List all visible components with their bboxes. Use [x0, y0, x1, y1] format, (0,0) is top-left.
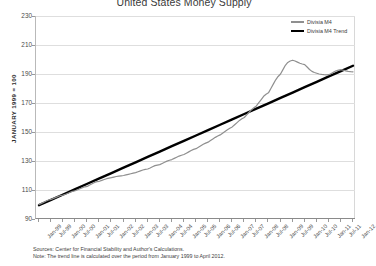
- y-axis-tick-label: 110: [8, 186, 32, 193]
- legend-swatch-icon: [291, 21, 304, 23]
- x-axis-tick-mark: [38, 219, 39, 222]
- series-layer: [36, 16, 356, 219]
- y-axis-tick-mark: [32, 103, 35, 104]
- x-axis-tick-mark: [243, 219, 244, 222]
- series-line-divisia-m4: [39, 60, 353, 204]
- footnotes: Sources: Center for Financial Stability …: [33, 246, 368, 261]
- x-axis-tick-mark: [62, 219, 63, 222]
- y-axis-title: JANUARY 1999 = 100: [10, 49, 17, 169]
- y-axis-tick-mark: [32, 219, 35, 220]
- y-axis-tick-mark: [32, 190, 35, 191]
- x-axis-tick-mark: [50, 219, 51, 222]
- chart-title: United States Money Supply: [0, 0, 368, 9]
- y-axis-tick-label: 210: [8, 41, 32, 48]
- x-axis-tick-mark: [255, 219, 256, 222]
- y-axis-tick-label: 170: [8, 99, 32, 106]
- x-axis-tick-mark: [267, 219, 268, 222]
- x-axis-tick-mark: [123, 219, 124, 222]
- x-axis-tick-mark: [171, 219, 172, 222]
- x-axis-tick-mark: [86, 219, 87, 222]
- footnote-sources: Sources: Center for Financial Stability …: [33, 246, 368, 253]
- y-axis-tick-label: 90: [8, 215, 32, 222]
- x-axis-tick-mark: [231, 219, 232, 222]
- y-axis-tick-label: 150: [8, 128, 32, 135]
- x-axis-tick-mark: [183, 219, 184, 222]
- x-axis-tick-mark: [292, 219, 293, 222]
- legend-label: Divisia M4: [307, 18, 332, 26]
- legend-swatch-icon: [291, 30, 304, 33]
- x-axis-tick-mark: [352, 219, 353, 222]
- x-axis-tick-mark: [74, 219, 75, 222]
- plot-area: [35, 16, 355, 219]
- chart-legend: Divisia M4 Divisia M4 Trend: [289, 16, 365, 38]
- legend-label: Divisia M4 Trend: [307, 27, 347, 35]
- y-axis-tick-mark: [32, 45, 35, 46]
- y-axis-tick-mark: [32, 16, 35, 17]
- x-axis-tick-label: Jan-12: [360, 223, 376, 239]
- x-axis-tick-mark: [147, 219, 148, 222]
- y-axis-tick-mark: [32, 74, 35, 75]
- series-line-divisia-m4-trend: [39, 66, 353, 205]
- legend-item-divisia-m4: Divisia M4: [291, 18, 363, 26]
- y-axis-tick-mark: [32, 161, 35, 162]
- x-axis-tick-mark: [328, 219, 329, 222]
- legend-item-divisia-m4-trend: Divisia M4 Trend: [291, 27, 363, 35]
- footnote-note: Note: The trend line is calculated over …: [33, 253, 368, 260]
- x-axis-tick-mark: [159, 219, 160, 222]
- x-axis-tick-mark: [98, 219, 99, 222]
- x-axis-tick-mark: [207, 219, 208, 222]
- x-axis-tick-mark: [135, 219, 136, 222]
- y-axis-tick-label: 230: [8, 12, 32, 19]
- y-axis-tick-mark: [32, 132, 35, 133]
- y-axis-tick-label: 130: [8, 157, 32, 164]
- x-axis-tick-mark: [304, 219, 305, 222]
- x-axis-tick-mark: [280, 219, 281, 222]
- x-axis-tick-mark: [110, 219, 111, 222]
- y-axis-tick-label: 190: [8, 70, 32, 77]
- x-axis-tick-mark: [316, 219, 317, 222]
- x-axis-tick-mark: [195, 219, 196, 222]
- x-axis-tick-mark: [340, 219, 341, 222]
- x-axis-tick-mark: [219, 219, 220, 222]
